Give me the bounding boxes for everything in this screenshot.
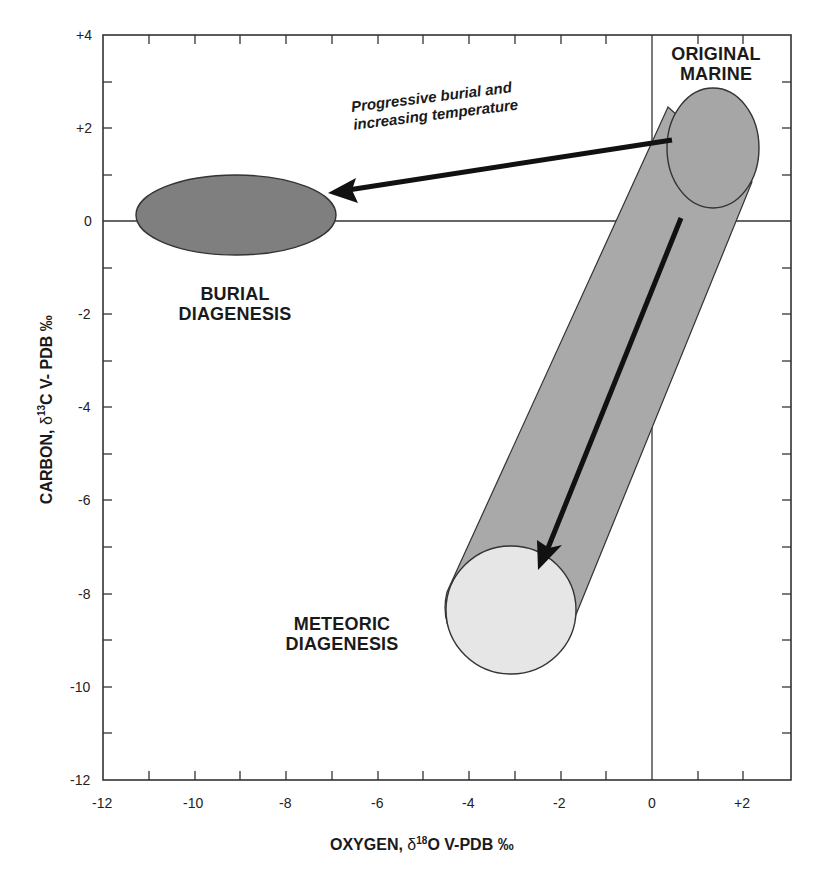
y-tick-label: -4 (78, 399, 90, 415)
x-tick-label: -2 (553, 795, 565, 811)
x-tick-label: -8 (279, 795, 291, 811)
y-tick-label: +2 (76, 120, 92, 136)
original-marine-region (667, 88, 759, 208)
x-tick-label: -4 (462, 795, 474, 811)
x-tick-label: -10 (183, 795, 203, 811)
x-tick-label: 0 (648, 795, 656, 811)
y-tick-label: -10 (70, 679, 90, 695)
original-marine-label: ORIGINAL MARINE (656, 44, 776, 84)
meteoric-diagenesis-label: METEORIC DIAGENESIS (262, 614, 422, 654)
isotope-diagram: +4 +2 0 -2 -4 -6 -8 -10 -12 -12 -10 -8 -… (0, 0, 824, 874)
y-axis-title: CARBON, δ13C V- PDB ‰ (36, 270, 55, 550)
x-axis-title: OXYGEN, δ18O V-PDB ‰ (330, 835, 514, 854)
y-tick-label: -12 (70, 772, 90, 788)
y-tick-label: -8 (78, 586, 90, 602)
diagram-canvas (0, 0, 824, 874)
y-tick-label: -2 (78, 306, 90, 322)
x-tick-label: -6 (371, 795, 383, 811)
x-tick-label: +2 (734, 795, 750, 811)
meteoric-diagenesis-region (446, 546, 576, 674)
y-tick-label: +4 (76, 27, 92, 43)
y-tick-label: 0 (84, 213, 92, 229)
burial-diagenesis-label: BURIAL DIAGENESIS (160, 284, 310, 324)
burial-diagenesis-region (136, 175, 336, 255)
y-tick-label: -6 (78, 492, 90, 508)
x-tick-label: -12 (92, 795, 112, 811)
